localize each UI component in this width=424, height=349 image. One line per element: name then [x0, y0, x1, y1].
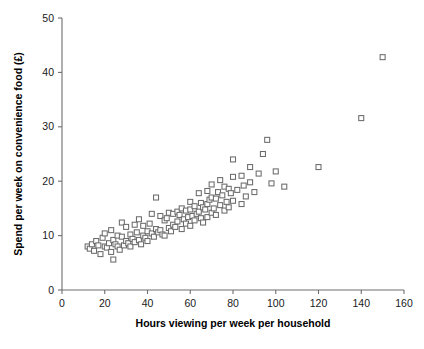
y-tick-label: 40: [42, 66, 54, 78]
data-point-marker: [380, 55, 385, 60]
data-point-marker: [132, 222, 137, 227]
x-axis-ticks: 020406080100120140160: [59, 290, 413, 309]
data-point-marker: [175, 219, 180, 224]
y-axis-ticks: 01020304050: [42, 12, 62, 296]
data-point-marker: [231, 157, 236, 162]
data-point-marker: [102, 231, 107, 236]
data-point-marker: [164, 216, 169, 221]
data-point-marker: [235, 187, 240, 192]
data-point-marker: [218, 178, 223, 183]
data-point-marker: [218, 203, 223, 208]
data-point-marker: [239, 173, 244, 178]
data-point-marker: [265, 137, 270, 142]
data-point-marker: [224, 199, 229, 204]
data-point-marker: [239, 202, 244, 207]
data-point-marker: [162, 233, 167, 238]
data-point-marker: [231, 198, 236, 203]
data-point-marker: [173, 224, 178, 229]
data-point-marker: [136, 217, 141, 222]
data-point-marker: [203, 207, 208, 212]
data-point-marker: [92, 248, 97, 253]
data-point-marker: [252, 190, 257, 195]
data-point-marker: [213, 212, 218, 217]
data-point-marker: [241, 183, 246, 188]
data-point-marker: [209, 182, 214, 187]
data-point-marker: [211, 206, 216, 211]
data-point-marker: [248, 165, 253, 170]
x-tick-label: 80: [227, 297, 239, 309]
data-point-marker: [201, 220, 206, 225]
data-point-marker: [231, 174, 236, 179]
data-point-marker: [139, 242, 144, 247]
data-point-marker: [269, 181, 274, 186]
data-point-marker: [109, 228, 114, 233]
data-point-marker: [220, 193, 225, 198]
x-tick-label: 120: [310, 297, 328, 309]
data-point-marker: [316, 165, 321, 170]
data-point-marker: [179, 227, 184, 232]
data-point-marker: [256, 171, 261, 176]
x-tick-label: 140: [352, 297, 370, 309]
data-point-marker: [282, 184, 287, 189]
data-point-marker: [147, 221, 152, 226]
y-axis-title: Spend per week on convenience food (£): [12, 52, 24, 256]
data-point-marker: [109, 249, 114, 254]
data-point-marker: [96, 243, 101, 248]
data-point-marker: [134, 230, 139, 235]
data-point-marker: [192, 218, 197, 223]
data-point-marker: [260, 152, 265, 157]
data-point-marker: [149, 211, 154, 216]
data-point-marker: [228, 191, 233, 196]
data-points: [85, 55, 385, 262]
data-point-marker: [243, 194, 248, 199]
y-tick-label: 0: [48, 284, 54, 296]
y-tick-label: 50: [42, 12, 54, 24]
data-point-marker: [98, 252, 103, 257]
x-axis-title: Hours viewing per week per household: [136, 317, 331, 329]
data-point-marker: [248, 180, 253, 185]
data-point-marker: [226, 205, 231, 210]
y-tick-label: 30: [42, 120, 54, 132]
x-tick-label: 20: [99, 297, 111, 309]
x-tick-label: 60: [184, 297, 196, 309]
data-point-marker: [213, 196, 218, 201]
data-point-marker: [192, 204, 197, 209]
x-tick-label: 0: [59, 297, 65, 309]
data-point-marker: [205, 188, 210, 193]
data-point-marker: [188, 223, 193, 228]
data-point-marker: [359, 116, 364, 121]
x-tick-label: 100: [267, 297, 285, 309]
x-tick-label: 40: [142, 297, 154, 309]
data-point-marker: [154, 195, 159, 200]
data-point-marker: [124, 224, 129, 229]
data-point-marker: [145, 239, 150, 244]
data-point-marker: [141, 223, 146, 228]
data-point-marker: [273, 169, 278, 174]
plot-canvas: 01020304050 020406080100120140160 Hours …: [0, 0, 424, 349]
data-point-marker: [111, 257, 116, 262]
y-tick-label: 20: [42, 175, 54, 187]
data-point-marker: [196, 191, 201, 196]
y-tick-label: 10: [42, 229, 54, 241]
scatter-chart-figure: 01020304050 020406080100120140160 Hours …: [0, 0, 424, 349]
x-tick-label: 160: [395, 297, 413, 309]
